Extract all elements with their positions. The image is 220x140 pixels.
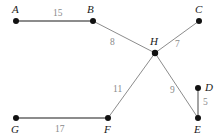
- nodes-layer: [13, 18, 202, 121]
- graph-diagram: 1587119517ABCDEFGH: [0, 0, 220, 140]
- node-label-d: D: [205, 82, 213, 93]
- graph-node-dot: [13, 18, 19, 24]
- edge-weight-label: 7: [175, 40, 180, 50]
- edge-weight-label: 17: [55, 125, 65, 135]
- graph-edge: [155, 53, 198, 118]
- node-label-f: F: [104, 124, 111, 135]
- edge-weight-label: 15: [53, 9, 63, 19]
- edge-weight-label: 11: [113, 85, 122, 95]
- node-label-g: G: [11, 124, 19, 135]
- graph-node-dot: [152, 50, 158, 56]
- edges-layer: [16, 21, 199, 118]
- graph-edge: [93, 21, 155, 53]
- graph-node-dot: [196, 18, 202, 24]
- graph-node-dot: [195, 85, 201, 91]
- graph-node-dot: [13, 115, 19, 121]
- graph-node-dot: [90, 18, 96, 24]
- graph-node-dot: [105, 115, 111, 121]
- graph-canvas: [0, 0, 220, 140]
- node-label-h: H: [150, 36, 158, 47]
- edge-weight-label: 8: [110, 38, 115, 48]
- node-label-a: A: [12, 4, 19, 15]
- graph-node-dot: [195, 115, 201, 121]
- node-label-e: E: [194, 124, 201, 135]
- edge-weight-label: 5: [203, 98, 208, 108]
- edge-weight-label: 9: [170, 86, 175, 96]
- node-label-c: C: [195, 4, 202, 15]
- node-label-b: B: [87, 4, 94, 15]
